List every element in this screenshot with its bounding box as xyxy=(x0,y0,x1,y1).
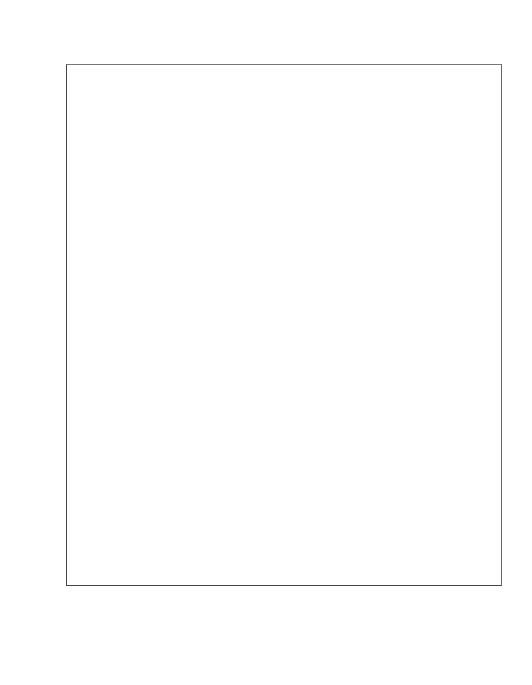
axes-layer xyxy=(66,64,502,586)
sas-output-page xyxy=(0,0,532,685)
